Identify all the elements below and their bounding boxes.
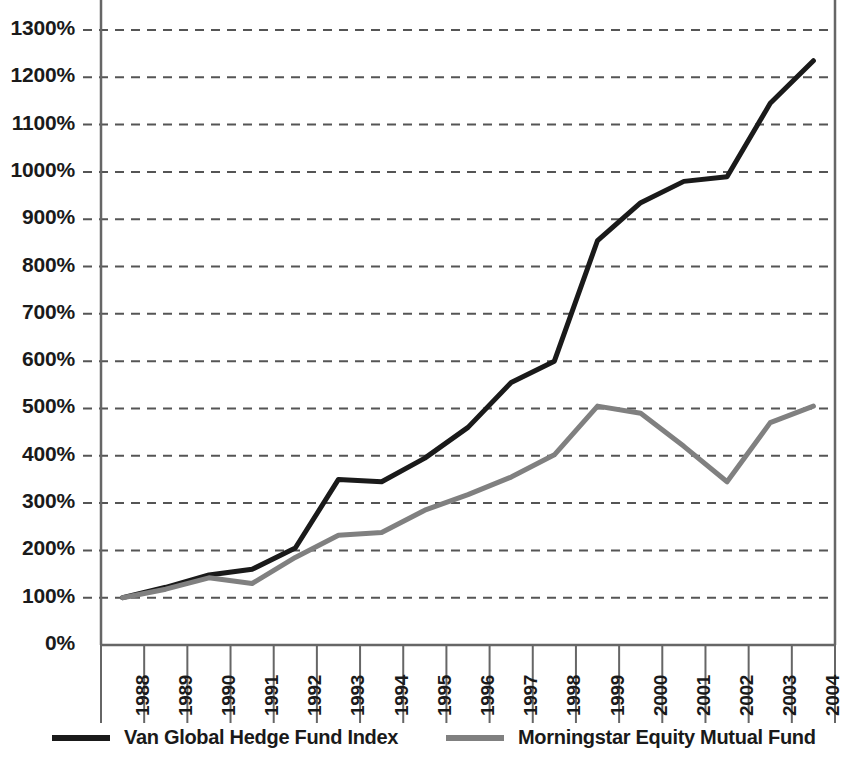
y-axis-tick-label: 0% bbox=[0, 631, 75, 655]
x-axis-tick-label: 2000 bbox=[650, 675, 672, 716]
series-line-1 bbox=[123, 406, 814, 598]
y-axis-tick-label: 700% bbox=[0, 300, 75, 324]
y-axis-tick-label: 400% bbox=[0, 442, 75, 466]
x-axis-tick-label: 1999 bbox=[607, 675, 629, 716]
y-axis-tick-label: 1000% bbox=[0, 158, 75, 182]
legend-line-swatch-primary bbox=[52, 735, 110, 741]
axis-lines bbox=[101, 0, 835, 645]
chart-container: 0%100%200%300%400%500%600%700%800%900%10… bbox=[0, 0, 844, 757]
line-chart-plot bbox=[0, 0, 844, 757]
legend-item-morningstar-equity-mutual-fund[interactable]: Morningstar Equity Mutual Fund bbox=[446, 718, 816, 757]
legend-label-primary: Van Global Hedge Fund Index bbox=[124, 726, 398, 749]
y-axis-tick-label: 200% bbox=[0, 536, 75, 560]
x-axis-tick-label: 1994 bbox=[391, 675, 413, 716]
x-axis-tick-label: 1998 bbox=[563, 675, 585, 716]
x-axis-tick-label: 2003 bbox=[779, 675, 801, 716]
x-axis-tick-label: 1990 bbox=[218, 675, 240, 716]
y-axis-tick-label: 1200% bbox=[0, 63, 75, 87]
y-axis-tick-label: 1100% bbox=[0, 111, 75, 135]
x-axis-tick-label: 1991 bbox=[261, 675, 283, 716]
y-axis-tick-label: 100% bbox=[0, 584, 75, 608]
x-axis-tick-label: 1996 bbox=[477, 675, 499, 716]
x-axis-tick-label: 2001 bbox=[693, 675, 715, 716]
gridlines bbox=[83, 30, 835, 598]
legend-item-van-global-hedge-fund-index[interactable]: Van Global Hedge Fund Index bbox=[52, 718, 398, 757]
series-lines bbox=[123, 61, 814, 598]
chart-legend: Van Global Hedge Fund Index Morningstar … bbox=[0, 718, 844, 757]
x-axis-ticks bbox=[101, 645, 835, 723]
x-axis-tick-label: 2004 bbox=[822, 675, 844, 716]
x-axis-tick-label: 1995 bbox=[434, 675, 456, 716]
y-axis-tick-label: 600% bbox=[0, 347, 75, 371]
y-axis-tick-label: 1300% bbox=[0, 16, 75, 40]
x-axis-tick-label: 1988 bbox=[132, 675, 154, 716]
legend-label-secondary: Morningstar Equity Mutual Fund bbox=[518, 726, 816, 749]
y-axis-tick-label: 800% bbox=[0, 253, 75, 277]
y-axis-tick-label: 300% bbox=[0, 489, 75, 513]
legend-line-swatch-secondary bbox=[446, 735, 504, 741]
x-axis-tick-label: 1993 bbox=[347, 675, 369, 716]
series-line-0 bbox=[123, 61, 814, 598]
y-axis-tick-label: 500% bbox=[0, 394, 75, 418]
x-axis-tick-label: 2002 bbox=[736, 675, 758, 716]
x-axis-tick-label: 1997 bbox=[520, 675, 542, 716]
y-axis-tick-label: 900% bbox=[0, 205, 75, 229]
x-axis-tick-label: 1992 bbox=[304, 675, 326, 716]
x-axis-tick-label: 1989 bbox=[175, 675, 197, 716]
